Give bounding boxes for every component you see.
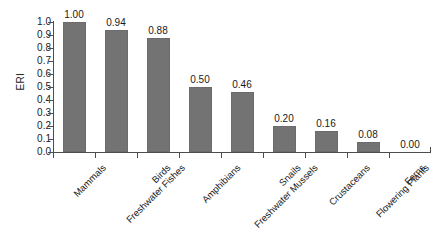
- x-tick-mark: [305, 153, 306, 158]
- category-label: Crustaceans: [327, 162, 372, 207]
- bar: [273, 126, 296, 152]
- x-tick-mark: [95, 153, 96, 158]
- bar-value-label: 0.16: [306, 118, 346, 129]
- bar: [189, 87, 212, 152]
- bar-value-label: 0.00: [390, 139, 430, 150]
- bar: [357, 142, 380, 152]
- y-axis-tick-labels: 1.00.90.80.70.60.50.40.30.20.10.0: [27, 0, 51, 245]
- category-label: Mammals: [71, 162, 108, 199]
- x-tick-mark: [53, 153, 54, 158]
- bar-value-label: 1.00: [54, 9, 94, 20]
- bar-value-label: 0.46: [222, 79, 262, 90]
- bar-value-label: 0.50: [180, 74, 220, 85]
- x-tick-mark: [263, 153, 264, 158]
- bar: [315, 131, 338, 152]
- x-tick-mark: [179, 153, 180, 158]
- y-axis-title: ERI: [15, 77, 26, 91]
- bar-value-label: 0.20: [264, 113, 304, 124]
- bar: [105, 30, 128, 152]
- x-tick-mark: [389, 153, 390, 158]
- bar: [147, 38, 170, 152]
- bar: [63, 22, 86, 152]
- bar-value-label: 0.08: [348, 129, 388, 140]
- x-tick-mark: [137, 153, 138, 158]
- x-axis-line: [53, 152, 431, 153]
- bar-value-label: 0.88: [138, 25, 178, 36]
- x-tick-mark: [221, 153, 222, 158]
- bar-value-label: 0.94: [96, 17, 136, 28]
- category-label: Amphibians: [200, 162, 243, 205]
- bar: [231, 92, 254, 152]
- bar-chart: ERI 1.00.90.80.70.60.50.40.30.20.10.0 Ma…: [0, 0, 448, 245]
- x-tick-mark: [347, 153, 348, 158]
